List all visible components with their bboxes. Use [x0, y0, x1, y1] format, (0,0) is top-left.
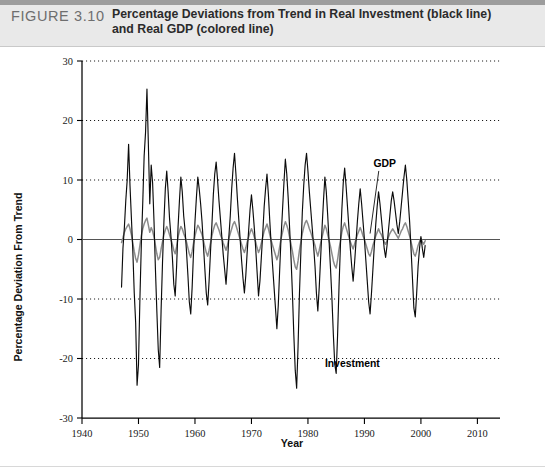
chart-container: 3020100-10-20-30 19401950196019701980199…: [0, 47, 545, 468]
y-tick-label: 20: [63, 115, 73, 126]
y-tick-label: -10: [59, 294, 73, 305]
figure-title-line-2: and Real GDP (colored line): [112, 22, 532, 37]
series-line-investment: [122, 89, 426, 388]
x-axis-label: Year: [281, 437, 303, 449]
y-tick-label: 0: [68, 234, 73, 245]
y-axis-ticks: 3020100-10-20-30: [59, 56, 82, 424]
y-tick-label: -30: [59, 413, 73, 424]
x-tick-label: 1960: [185, 428, 206, 439]
page-bottom-edge: [0, 466, 545, 467]
figure-title: Percentage Deviations from Trend in Real…: [112, 7, 532, 38]
x-tick-label: 2010: [467, 428, 488, 439]
deviations-from-trend-chart: 3020100-10-20-30 19401950196019701980199…: [0, 47, 545, 468]
x-tick-label: 1970: [241, 428, 262, 439]
x-tick-label: 1940: [72, 428, 93, 439]
x-tick-label: 1950: [128, 428, 149, 439]
y-tick-label: -20: [59, 353, 73, 364]
y-tick-label: 30: [63, 56, 73, 67]
x-tick-label: 1990: [354, 428, 375, 439]
x-tick-label: 2000: [411, 428, 432, 439]
y-axis-label: Percentage Deviation From Trend: [12, 193, 24, 362]
series-line-gdp: [122, 218, 426, 269]
annotation-gdp: GDP: [374, 158, 397, 169]
figure-number: FIGURE 3.10: [11, 8, 105, 24]
annotation-investment: Investment: [325, 358, 380, 369]
figure-header: FIGURE 3.10 Percentage Deviations from T…: [0, 0, 545, 47]
x-axis-ticks: 19401950196019701980199020002010: [72, 418, 488, 439]
y-tick-label: 10: [63, 175, 73, 186]
grid-lines: [82, 61, 500, 359]
figure-title-line-1: Percentage Deviations from Trend in Real…: [112, 7, 491, 21]
data-series: [122, 89, 426, 388]
header-top-rule: [0, 0, 545, 5]
